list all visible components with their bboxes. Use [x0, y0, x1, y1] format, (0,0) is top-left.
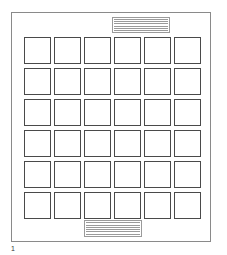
- grid-cell: [24, 161, 51, 188]
- grid-cell: [24, 192, 51, 219]
- text-line: [114, 28, 168, 29]
- grid-cell: [54, 99, 81, 126]
- grid-cell: [24, 130, 51, 157]
- text-line: [114, 23, 168, 24]
- grid-cell: [174, 99, 201, 126]
- grid-cell: [144, 161, 171, 188]
- grid-cell: [54, 161, 81, 188]
- grid-cell: [84, 37, 111, 64]
- grid-cell: [54, 130, 81, 157]
- grid-cell: [114, 161, 141, 188]
- image-grid: [24, 37, 201, 219]
- grid-cell: [84, 192, 111, 219]
- grid-cell: [54, 68, 81, 95]
- grid-cell: [114, 37, 141, 64]
- grid-cell: [174, 130, 201, 157]
- text-line: [114, 30, 168, 31]
- grid-cell: [24, 68, 51, 95]
- top-text-block: [112, 17, 170, 33]
- grid-cell: [114, 99, 141, 126]
- grid-cell: [84, 130, 111, 157]
- text-line: [86, 225, 140, 226]
- grid-cell: [174, 161, 201, 188]
- grid-cell: [54, 37, 81, 64]
- grid-cell: [114, 130, 141, 157]
- text-line: [114, 21, 168, 22]
- page-number: 1: [11, 245, 15, 252]
- grid-cell: [144, 130, 171, 157]
- text-line: [86, 234, 140, 235]
- grid-cell: [24, 37, 51, 64]
- text-line: [86, 222, 140, 223]
- text-line: [86, 229, 140, 230]
- grid-cell: [174, 37, 201, 64]
- grid-cell: [114, 192, 141, 219]
- grid-cell: [84, 161, 111, 188]
- grid-cell: [54, 192, 81, 219]
- grid-cell: [24, 99, 51, 126]
- text-line: [86, 227, 140, 228]
- grid-cell: [174, 68, 201, 95]
- text-line: [114, 19, 168, 20]
- text-line: [114, 26, 168, 27]
- grid-cell: [144, 68, 171, 95]
- grid-cell: [84, 99, 111, 126]
- grid-cell: [84, 68, 111, 95]
- grid-cell: [114, 68, 141, 95]
- grid-cell: [174, 192, 201, 219]
- bottom-text-block: [84, 220, 142, 237]
- text-line: [86, 231, 140, 232]
- grid-cell: [144, 37, 171, 64]
- grid-cell: [144, 99, 171, 126]
- grid-cell: [144, 192, 171, 219]
